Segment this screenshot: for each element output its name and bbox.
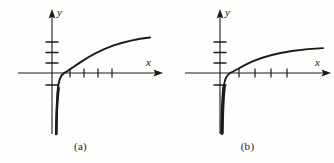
log-curve-b-asymptote-tail bbox=[222, 86, 224, 133]
x-axis-label-a: x bbox=[145, 56, 151, 68]
chart-a-canvas: y x bbox=[0, 0, 167, 140]
chart-panel-a: y x (a) bbox=[0, 0, 167, 163]
x-axis-label-b: x bbox=[314, 56, 320, 68]
panel-caption-b: (b) bbox=[167, 140, 334, 152]
log-curve-b bbox=[222, 48, 323, 134]
log-curve-a-asymptote-tail bbox=[56, 88, 58, 134]
panel-caption-a: (a) bbox=[0, 140, 167, 152]
figure-two-log-graphs: y x (a) bbox=[0, 0, 334, 163]
y-axis-label-b: y bbox=[224, 6, 230, 18]
axes-group-b bbox=[185, 9, 331, 134]
chart-panel-b: y x (b) bbox=[167, 0, 334, 163]
log-curve-a bbox=[56, 37, 150, 134]
y-axis-label-a: y bbox=[56, 6, 62, 18]
chart-b-canvas: y x bbox=[167, 0, 334, 140]
axes-group-a bbox=[18, 9, 163, 134]
